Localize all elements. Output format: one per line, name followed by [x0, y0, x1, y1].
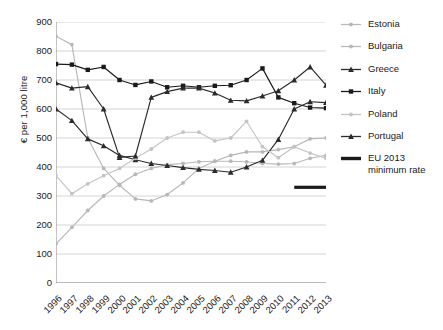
legend-item-italy[interactable]: Italy [340, 85, 443, 97]
data-point-marker [349, 45, 353, 49]
legend-swatch-icon [340, 86, 362, 97]
data-point-marker [349, 23, 353, 27]
legend-item-estonia[interactable]: Estonia [340, 18, 443, 30]
chart-legend: EstoniaBulgariaGreeceItalyPolandPortugal… [340, 18, 443, 186]
legend-label: Bulgaria [368, 40, 403, 52]
legend-item-eu-2013-minimum-rate[interactable]: EU 2013 minimum rate [340, 152, 443, 175]
legend-item-bulgaria[interactable]: Bulgaria [340, 40, 443, 52]
legend-label: EU 2013 minimum rate [368, 152, 443, 175]
legend-item-greece[interactable]: Greece [340, 63, 443, 75]
legend-swatch-icon [340, 153, 362, 164]
legend-item-portugal[interactable]: Portugal [340, 130, 443, 142]
legend-swatch-icon [340, 19, 362, 30]
legend-swatch-icon [340, 64, 362, 75]
legend-label: Poland [368, 108, 398, 120]
line-chart: € per 1,000 litre 0100200300400500600700… [0, 0, 443, 330]
legend-swatch-icon [340, 131, 362, 142]
legend-label: Greece [368, 63, 399, 75]
legend-label: Portugal [368, 130, 403, 142]
legend-swatch-icon [340, 109, 362, 120]
data-point-marker [349, 89, 353, 93]
legend-label: Estonia [368, 18, 400, 30]
legend-label: Italy [368, 85, 385, 97]
legend-item-poland[interactable]: Poland [340, 108, 443, 120]
data-point-marker [349, 112, 353, 116]
legend-swatch-icon [340, 41, 362, 52]
